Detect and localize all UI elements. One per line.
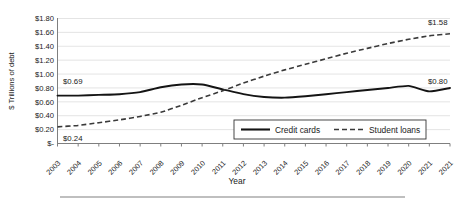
y-axis-title: $ Trillions of debt	[7, 51, 16, 109]
y-axis-tick-label: $0.80	[35, 84, 54, 93]
y-axis-tick-label: $0.60	[35, 98, 54, 107]
data-label-credit-cards-start: $0.69	[63, 77, 83, 86]
y-axis-tick-label: $1.40	[35, 42, 54, 51]
x-axis-title: Year	[229, 176, 246, 186]
y-axis-tick-label: $0.40	[35, 111, 54, 120]
data-label-student-loans-start: $0.24	[63, 134, 83, 143]
y-axis-tick-label: $-	[47, 139, 54, 148]
y-axis-tick-label: $1.80	[35, 14, 54, 23]
legend: Credit cards Student loans	[234, 120, 426, 139]
debt-line-chart: $1.80$1.60$1.40$1.20$1.00$0.80$0.60$0.40…	[0, 0, 463, 206]
data-label-credit-cards-end: $0.80	[428, 77, 448, 86]
legend-label-student-loans: Student loans	[369, 125, 420, 135]
y-axis-tick-label: $1.60	[35, 28, 54, 37]
legend-label-credit-cards: Credit cards	[275, 125, 320, 135]
y-axis-tick-label: $1.00	[35, 70, 54, 79]
y-axis-tick-label: $1.20	[35, 56, 54, 65]
data-label-student-loans-end: $1.58	[428, 18, 448, 27]
y-axis-tick-label: $0.20	[35, 125, 54, 134]
